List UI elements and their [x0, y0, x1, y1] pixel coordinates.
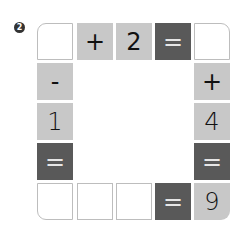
- answer-box-top-left[interactable]: [37, 23, 73, 60]
- problem-number-badge: 2: [14, 22, 25, 33]
- answer-box-bottom-3[interactable]: [116, 183, 152, 220]
- number-4: 4: [194, 103, 230, 140]
- operator-plus: +: [194, 63, 230, 100]
- number-2: 2: [116, 23, 152, 60]
- answer-box-bottom-2[interactable]: [77, 183, 113, 220]
- answer-box-bottom-1[interactable]: [37, 183, 73, 220]
- equals-sign: =: [155, 23, 191, 60]
- operator-minus: -: [37, 63, 73, 100]
- number-9: 9: [194, 183, 230, 220]
- operator-plus: +: [77, 23, 113, 60]
- number-1: 1: [37, 103, 73, 140]
- equals-sign: =: [155, 183, 191, 220]
- answer-box-top-right[interactable]: [194, 23, 230, 60]
- equals-sign: =: [194, 143, 230, 180]
- equals-sign: =: [37, 143, 73, 180]
